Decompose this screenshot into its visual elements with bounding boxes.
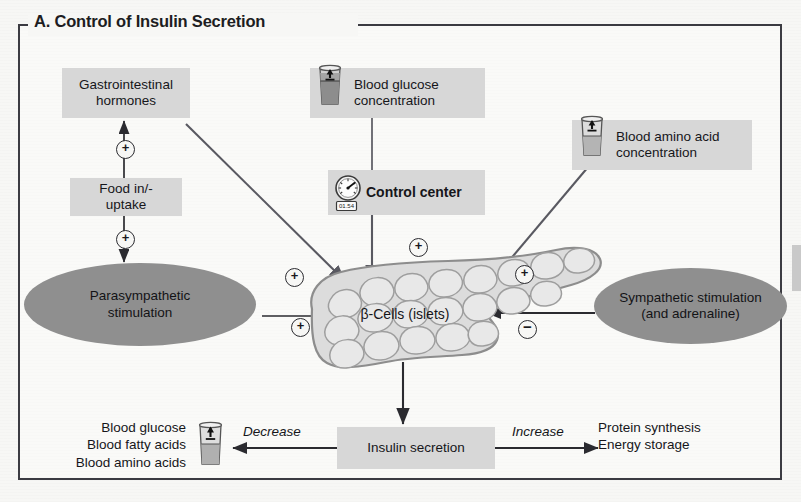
node-blood-levels-label: Blood glucose Blood fatty acids Blood am… (54, 419, 186, 471)
node-label: Control center (366, 184, 462, 201)
node-label: Food in/- uptake (99, 181, 152, 213)
node-label: Sympathetic stimulation (and adrenaline) (619, 290, 762, 322)
edge-label-increase: Increase (512, 424, 564, 439)
sign-plus-food-to-gi: + (116, 140, 135, 159)
beaker-up-icon (313, 59, 347, 111)
node-beta-cells-label: β-Cells (islets) (330, 306, 480, 324)
node-outputs-label: Protein synthesis Energy storage (598, 419, 778, 454)
page-title: A. Control of Insulin Secretion (34, 12, 265, 31)
node-label: Parasympathetic stimulation (90, 288, 191, 320)
node-food-intake: Food in/- uptake (70, 178, 182, 216)
node-parasympathetic-stimulation: Parasympathetic stimulation (24, 263, 256, 346)
beaker-down-icon (193, 416, 229, 472)
sign-minus-sympathetic-to-beta-cells: − (518, 320, 537, 339)
beaker-up-icon (575, 110, 609, 162)
edge-label-decrease: Decrease (243, 424, 301, 439)
margin-tab-marker (792, 245, 801, 291)
node-label: Insulin secretion (367, 440, 465, 456)
node-insulin-secretion: Insulin secretion (337, 427, 495, 469)
sign-plus-control-center-to-beta-cells: + (409, 238, 428, 257)
sign-plus-food-to-parasympathetic: + (116, 230, 135, 249)
node-sympathetic-stimulation: Sympathetic stimulation (and adrenaline) (594, 268, 787, 344)
gauge-readout: 01.54 (339, 203, 355, 209)
diagram-page: A. Control of Insulin Secretion (0, 0, 801, 502)
node-gastrointestinal-hormones: Gastrointestinal hormones (62, 68, 190, 118)
node-label: Blood glucose concentration (354, 77, 439, 109)
node-label: Blood amino acid concentration (616, 129, 720, 161)
gauge-icon: 01.54 (331, 173, 367, 213)
sign-plus-gi-to-beta-cells: + (285, 268, 304, 287)
node-label: Gastrointestinal hormones (79, 77, 173, 109)
sign-plus-amino-acid-to-beta-cells: + (515, 265, 534, 284)
sign-plus-parasympathetic-to-beta-cells: + (291, 318, 310, 337)
